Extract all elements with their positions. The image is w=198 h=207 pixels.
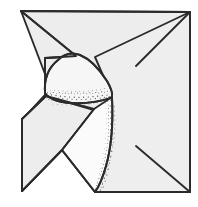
origami-figure-container: Origami paper fold diagram Line drawing …: [0, 0, 198, 207]
origami-diagram: Origami paper fold diagram Line drawing …: [0, 0, 198, 207]
